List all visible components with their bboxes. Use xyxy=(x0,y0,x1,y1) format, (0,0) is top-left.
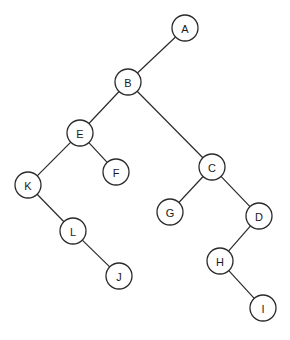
edge-e-f xyxy=(89,143,107,163)
edge-d-h xyxy=(229,226,251,251)
tree-node-l: L xyxy=(60,218,86,244)
node-label: H xyxy=(216,256,224,268)
nodes-layer: ABECFKGDLHJI xyxy=(15,15,276,321)
node-label: G xyxy=(166,207,175,219)
tree-node-c: C xyxy=(199,154,225,180)
edge-h-i xyxy=(229,271,254,299)
tree-node-h: H xyxy=(207,248,233,274)
node-label: E xyxy=(76,128,83,140)
node-label: I xyxy=(261,303,264,315)
tree-node-f: F xyxy=(103,159,129,185)
node-label: L xyxy=(70,226,76,238)
node-label: J xyxy=(116,271,122,283)
tree-diagram: ABECFKGDLHJI xyxy=(0,0,290,340)
tree-node-g: G xyxy=(157,199,183,225)
tree-node-a: A xyxy=(172,15,198,41)
node-label: K xyxy=(24,180,32,192)
node-label: C xyxy=(208,162,216,174)
edge-e-k xyxy=(37,142,71,176)
edge-b-e xyxy=(89,91,119,123)
tree-node-b: B xyxy=(115,69,141,95)
edge-c-d xyxy=(221,176,250,206)
node-label: A xyxy=(181,23,189,35)
edge-b-c xyxy=(137,91,203,158)
node-label: F xyxy=(113,167,120,179)
tree-node-k: K xyxy=(15,172,41,198)
edge-k-l xyxy=(37,194,64,221)
tree-node-j: J xyxy=(106,263,132,289)
tree-node-i: I xyxy=(250,295,276,321)
tree-node-e: E xyxy=(67,120,93,146)
edge-a-b xyxy=(137,37,175,73)
tree-node-d: D xyxy=(246,203,272,229)
edge-l-j xyxy=(82,240,109,267)
node-label: B xyxy=(124,77,131,89)
node-label: D xyxy=(255,211,263,223)
edge-c-g xyxy=(179,177,203,203)
